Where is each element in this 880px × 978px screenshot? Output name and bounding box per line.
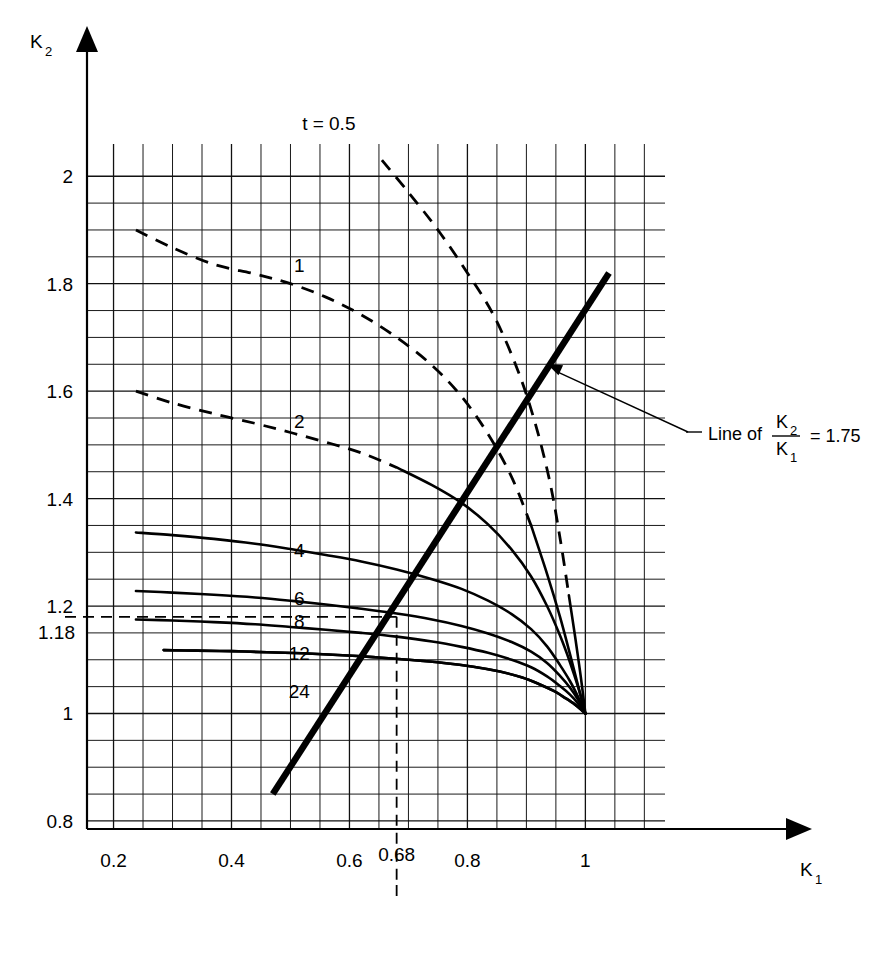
major-gridlines [87, 144, 665, 829]
curve-label-12: 12 [289, 643, 310, 664]
curve-2-dashed [136, 391, 397, 467]
x-axis-title: K 1 [800, 859, 822, 887]
callout-denominator-subscript: 1 [790, 450, 797, 465]
axis-lines [76, 26, 812, 840]
curve-label-1: 1 [294, 255, 305, 276]
y-tick-label: 1 [62, 703, 73, 724]
y-axis-title-subscript: 2 [45, 44, 52, 59]
y-axis-arrowhead [76, 26, 98, 52]
y-tick-label: 2 [62, 166, 73, 187]
y-axis-title: K 2 [30, 31, 52, 59]
chart-figure: 0.811.21.41.61.821.180.20.40.60.810.68 t… [0, 0, 880, 978]
y-tick-label-special: 1.18 [38, 622, 75, 643]
callout-denominator: K [776, 439, 788, 459]
x-axis-arrowhead [786, 818, 812, 840]
callout-prefix-text: Line of [708, 424, 763, 444]
y-tick-label: 1.4 [47, 489, 74, 510]
x-axis-title-text: K [800, 859, 813, 880]
x-tick-label: 0.6 [336, 850, 362, 871]
x-axis-title-subscript: 1 [815, 872, 822, 887]
curve-label-2: 2 [294, 411, 305, 432]
x-tick-label: 0.8 [454, 850, 480, 871]
reference-line-callout: Line of K 2 K 1 = 1.75 [547, 364, 860, 465]
nomogram-chart: 0.811.21.41.61.821.180.20.40.60.810.68 t… [0, 0, 880, 978]
x-tick-label: 0.2 [100, 850, 126, 871]
x-tick-label: 1 [580, 850, 591, 871]
curve-label-6: 6 [294, 588, 305, 609]
y-tick-label: 1.6 [47, 381, 73, 402]
callout-numerator: K [776, 412, 788, 432]
x-tick-label: 0.4 [218, 850, 245, 871]
curve-label-4: 4 [294, 540, 305, 561]
curve-8 [136, 619, 585, 713]
x-tick-label-special: 0.68 [378, 844, 415, 865]
series-curves [136, 160, 585, 713]
curve-labels: t = 0.5124681224 [289, 113, 356, 702]
callout-equals-value: = 1.75 [810, 426, 861, 446]
y-tick-label: 0.8 [47, 811, 73, 832]
curve-label-8: 8 [294, 611, 305, 632]
y-axis-title-text: K [30, 31, 43, 52]
minor-gridlines [87, 144, 665, 829]
curve-2-solid [397, 467, 586, 713]
axis-tick-labels: 0.811.21.41.61.821.180.20.40.60.810.68 [38, 166, 591, 871]
callout-leader-line [555, 371, 688, 432]
y-tick-label: 1.2 [47, 596, 73, 617]
y-tick-label: 1.8 [47, 274, 73, 295]
curve-label-24: 24 [289, 681, 311, 702]
curve-label-t-0-5: t = 0.5 [302, 113, 355, 134]
